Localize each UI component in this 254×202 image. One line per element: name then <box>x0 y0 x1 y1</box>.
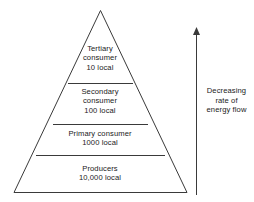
energy-flow-annotation: Decreasing rate of energy flow <box>199 86 254 115</box>
energy-pyramid-figure: Tertiary consumer 10 local Secondary con… <box>0 0 254 202</box>
flow-note-line3: energy flow <box>199 105 254 115</box>
tier-label-tertiary: Tertiary consumer 10 local <box>52 44 148 72</box>
flow-note-line1: Decreasing <box>199 86 254 96</box>
energy-flow-arrow-head-icon <box>193 27 200 35</box>
tier-label-secondary: Secondary consumer 100 local <box>52 87 148 115</box>
tier-producers-count: 10,000 local <box>30 173 170 182</box>
tier-secondary-line2: consumer <box>52 96 148 105</box>
tier-primary-line1: Primary consumer <box>36 129 164 138</box>
tier-secondary-line1: Secondary <box>52 87 148 96</box>
tier-primary-count: 1000 local <box>36 138 164 147</box>
tier-tertiary-line2: consumer <box>52 53 148 62</box>
tier-tertiary-line1: Tertiary <box>52 44 148 53</box>
tier-label-primary: Primary consumer 1000 local <box>36 129 164 148</box>
flow-note-line2: rate of <box>199 96 254 106</box>
tier-secondary-count: 100 local <box>52 106 148 115</box>
tier-producers-line1: Producers <box>30 164 170 173</box>
tier-tertiary-count: 10 local <box>52 63 148 72</box>
tier-label-producers: Producers 10,000 local <box>30 164 170 183</box>
